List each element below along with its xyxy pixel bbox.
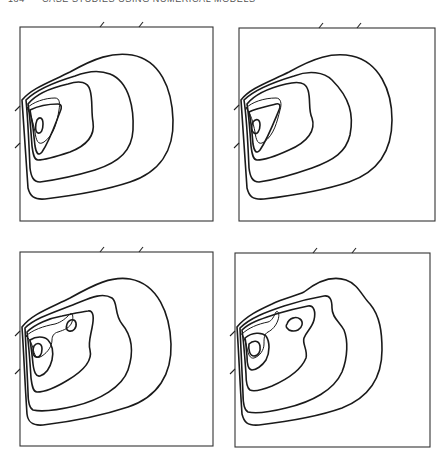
tick-mark (15, 331, 20, 336)
plot-frame (239, 28, 435, 221)
tick-mark (234, 105, 239, 110)
contour-panel-top-left (0, 0, 224, 232)
contour-line (286, 318, 302, 331)
plot-frame (235, 253, 430, 447)
tick-mark (15, 143, 20, 148)
tick-mark (230, 369, 235, 374)
tick-mark (100, 22, 104, 27)
contour-panel-top-right (224, 0, 448, 232)
contour-panel-bottom-left (0, 232, 224, 464)
contour-line (36, 118, 43, 133)
contour-line (241, 55, 392, 199)
tick-mark (319, 23, 323, 28)
contour-line (27, 311, 93, 392)
contour-plot (0, 232, 224, 464)
contour-line (240, 296, 347, 413)
contour-line (33, 344, 42, 358)
tick-mark (230, 331, 235, 336)
tick-mark (139, 22, 143, 27)
tick-mark (139, 247, 143, 252)
contour-plot (0, 0, 224, 232)
contour-line (22, 278, 171, 425)
tick-mark (234, 143, 239, 148)
tick-mark (100, 247, 104, 252)
contour-line (28, 82, 93, 160)
plot-frame (20, 27, 213, 221)
contour-line (247, 82, 313, 160)
contour-line (252, 120, 260, 134)
tick-mark (352, 248, 356, 253)
contour-plot (224, 232, 448, 464)
contour-line (249, 341, 260, 356)
contour-plot (224, 0, 448, 232)
tick-mark (15, 369, 20, 374)
contour-line (66, 320, 76, 331)
tick-mark (15, 106, 20, 111)
contour-panel-bottom-right (224, 232, 448, 464)
tick-mark (357, 23, 361, 28)
tick-mark (313, 248, 317, 253)
contour-line (22, 54, 173, 199)
